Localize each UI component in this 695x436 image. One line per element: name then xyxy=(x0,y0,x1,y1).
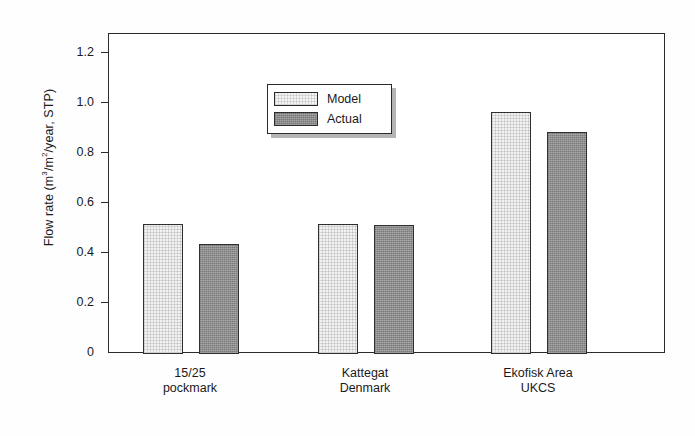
x-axis-category-2-line1: Kattegat xyxy=(342,366,389,380)
x-axis-category-1-line2: pockmark xyxy=(120,381,260,396)
bar-model-1 xyxy=(143,224,183,354)
bar-actual-1 xyxy=(199,244,239,354)
x-axis-category-1-line1: 15/25 xyxy=(174,366,205,380)
legend-item-model: Model xyxy=(274,90,385,108)
bar-chart-figure: Flow rate (m3/m2/year, STP) 00.20.40.60.… xyxy=(0,0,695,436)
legend-label-model: Model xyxy=(327,93,361,106)
y-axis-title-mid: /m xyxy=(42,157,56,171)
x-axis-category-3-line1: Ekofisk Area xyxy=(503,366,572,380)
bar-model-2 xyxy=(318,224,358,354)
y-axis-title-prefix: Flow rate (m xyxy=(42,176,56,247)
bar-actual-3 xyxy=(547,132,587,355)
y-axis-tick-label-0.8: 0.8 xyxy=(34,146,94,159)
bar-actual-2 xyxy=(374,225,414,354)
plot-area: Model Actual xyxy=(108,33,665,353)
legend-swatch-actual-icon xyxy=(274,112,318,126)
chart-legend: Model Actual xyxy=(267,84,392,134)
y-axis-tick-label-0.2: 0.2 xyxy=(34,296,94,309)
x-axis-category-1: 15/25pockmark xyxy=(120,366,260,396)
y-axis-title: Flow rate (m3/m2/year, STP) xyxy=(40,18,55,318)
x-axis-category-2-line2: Denmark xyxy=(295,381,435,396)
y-axis-tick-label-1.0: 1.0 xyxy=(34,96,94,109)
y-axis-tick-label-0.4: 0.4 xyxy=(34,246,94,259)
x-axis-category-3-line2: UKCS xyxy=(468,381,608,396)
y-axis-tick-label-0: 0 xyxy=(34,346,94,359)
y-axis-title-sup-1: 3 xyxy=(40,171,49,176)
y-axis-tick-label-0.6: 0.6 xyxy=(34,196,94,209)
legend-item-actual: Actual xyxy=(274,110,385,128)
x-axis-category-2: KattegatDenmark xyxy=(295,366,435,396)
legend-swatch-model-icon xyxy=(274,92,318,106)
x-axis-category-3: Ekofisk AreaUKCS xyxy=(468,366,608,396)
y-axis-tick-label-1.2: 1.2 xyxy=(34,46,94,59)
bar-model-3 xyxy=(491,112,531,355)
legend-label-actual: Actual xyxy=(327,113,362,126)
